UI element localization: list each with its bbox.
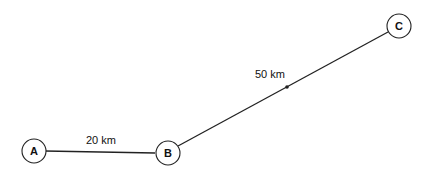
edge-midpoint-dot [285, 85, 289, 89]
edge-label-a-b: 20 km [86, 134, 116, 146]
node-a: A [22, 139, 46, 163]
node-b: B [156, 141, 180, 165]
edge-a-b [45, 151, 155, 153]
node-a-label: A [30, 145, 38, 157]
node-c: C [387, 14, 411, 38]
node-c-label: C [395, 20, 403, 32]
edge-b-c [178, 32, 388, 146]
node-b-label: B [164, 147, 172, 159]
edge-label-b-c: 50 km [255, 68, 285, 80]
route-diagram: 20 km 50 km A B C [0, 0, 429, 174]
